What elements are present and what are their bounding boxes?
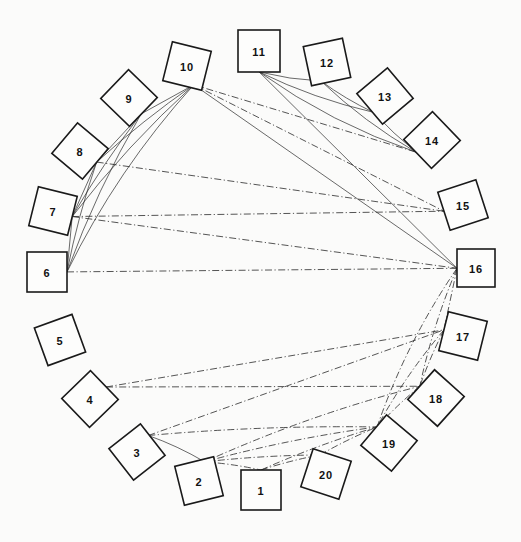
edge-3-17: [148, 330, 444, 436]
node-label-20: 20: [319, 469, 333, 481]
node-8[interactable]: 8: [52, 123, 108, 179]
edge-7-16: [72, 217, 457, 269]
node-label-13: 13: [378, 91, 392, 103]
node-layer: 1234567891011121314151617181920: [27, 30, 495, 510]
node-label-12: 12: [320, 57, 334, 69]
node-7[interactable]: 7: [29, 187, 77, 235]
node-label-2: 2: [195, 476, 202, 488]
edge-4-17: [106, 330, 444, 387]
node-label-1: 1: [257, 485, 264, 497]
node-14[interactable]: 14: [404, 112, 461, 169]
node-label-3: 3: [133, 447, 140, 459]
node-13[interactable]: 13: [357, 68, 413, 124]
node-15[interactable]: 15: [438, 180, 488, 230]
node-label-8: 8: [76, 146, 83, 158]
node-4[interactable]: 4: [62, 371, 119, 428]
edge-11-16: [259, 72, 457, 268]
node-3[interactable]: 3: [109, 424, 165, 480]
edge-2-19: [205, 427, 377, 462]
edge-3-19: [148, 427, 377, 436]
edge-4-18: [106, 386, 420, 387]
node-label-6: 6: [43, 267, 50, 279]
node-5[interactable]: 5: [34, 314, 85, 365]
node-label-14: 14: [425, 135, 439, 147]
edge-7-15: [72, 211, 444, 216]
node-18[interactable]: 18: [408, 370, 464, 426]
edge-10-16: [194, 85, 457, 268]
node-label-5: 5: [56, 335, 63, 347]
node-12[interactable]: 12: [303, 38, 350, 85]
node-10[interactable]: 10: [163, 42, 211, 90]
node-19[interactable]: 19: [361, 415, 417, 471]
node-link-diagram: 1234567891011121314151617181920: [0, 0, 521, 542]
node-label-9: 9: [125, 93, 132, 105]
node-label-4: 4: [86, 394, 93, 406]
node-16[interactable]: 16: [457, 249, 495, 287]
edge-6-16: [67, 268, 457, 272]
node-11[interactable]: 11: [238, 30, 280, 72]
node-6[interactable]: 6: [27, 252, 67, 292]
node-label-17: 17: [456, 331, 470, 343]
node-label-18: 18: [429, 393, 443, 405]
node-label-7: 7: [49, 206, 56, 218]
node-17[interactable]: 17: [439, 312, 487, 360]
node-label-19: 19: [382, 438, 396, 450]
node-20[interactable]: 20: [301, 449, 351, 499]
diagram-canvas: 1234567891011121314151617181920: [0, 0, 521, 542]
node-label-15: 15: [456, 200, 470, 212]
node-label-11: 11: [252, 46, 266, 58]
node-1[interactable]: 1: [241, 470, 281, 510]
node-label-16: 16: [469, 263, 483, 275]
node-label-10: 10: [180, 61, 194, 73]
edge-layer: [67, 72, 457, 470]
node-2[interactable]: 2: [175, 457, 223, 505]
